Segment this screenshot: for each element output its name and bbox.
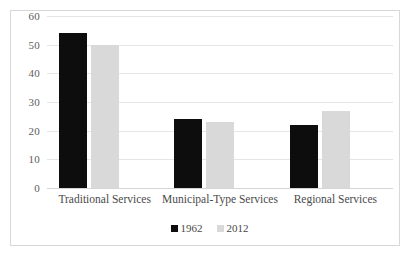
plot-area: 0102030405060 (47, 16, 393, 188)
y-axis-tick-label: 50 (29, 39, 40, 51)
x-axis-category-label: Municipal-Type Services (162, 193, 278, 205)
legend-swatch-square-icon (171, 225, 178, 232)
legend-entry[interactable]: 1962 (171, 222, 203, 234)
legend-swatch-square-icon (217, 225, 224, 232)
bar (59, 33, 87, 188)
y-axis-tick-label: 40 (29, 67, 40, 79)
bar-group (162, 16, 277, 188)
legend-label: 2012 (227, 222, 249, 234)
bar-chart-figure: 0102030405060 Traditional ServicesMunici… (0, 0, 419, 262)
x-axis-category-labels: Traditional ServicesMunicipal-Type Servi… (47, 193, 393, 213)
y-axis-tick-label: 30 (29, 96, 40, 108)
bars-layer (47, 16, 393, 188)
bar (174, 119, 202, 188)
y-axis-tick-label: 10 (29, 153, 40, 165)
x-axis-category-label: Regional Services (294, 193, 377, 205)
bar (91, 45, 119, 188)
bar-group (278, 16, 393, 188)
y-axis-tick-label: 0 (34, 182, 40, 194)
legend-label: 1962 (181, 222, 203, 234)
bar (322, 111, 350, 188)
bar (290, 125, 318, 188)
x-axis-category-label: Traditional Services (58, 193, 151, 205)
chart-legend: 19622012 (0, 222, 419, 234)
y-axis-tick-label: 20 (29, 125, 40, 137)
bar (206, 122, 234, 188)
axis-baseline (47, 188, 393, 189)
bar-group (47, 16, 162, 188)
y-axis-tick-label: 60 (29, 10, 40, 22)
legend-entry[interactable]: 2012 (217, 222, 249, 234)
